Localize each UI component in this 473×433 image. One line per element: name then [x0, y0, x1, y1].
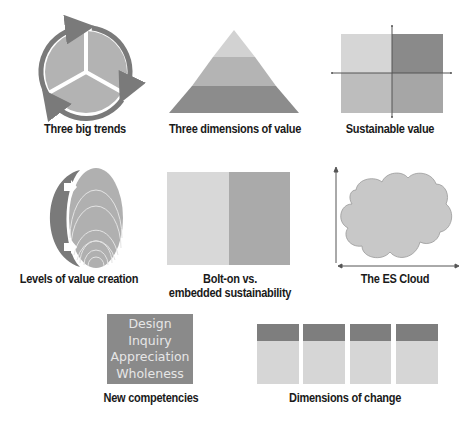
- change-column-4: [396, 324, 438, 384]
- bolt-on-panel: [167, 172, 229, 265]
- pyramid-icon: [155, 0, 325, 120]
- cloud-axes-icon: [320, 150, 473, 275]
- dimensions-of-change-diagram: Dimensions of change: [240, 300, 473, 433]
- es-cloud-diagram: The ES Cloud: [320, 150, 473, 300]
- column-body: [257, 341, 299, 384]
- column-body: [350, 341, 391, 384]
- change-column-3: [350, 324, 391, 384]
- trend-cycle-icon: [0, 0, 155, 130]
- competency-design: Design: [107, 316, 193, 333]
- bolt-on-vs-embedded-diagram: Bolt-on vs. embedded sustainability: [155, 150, 325, 305]
- three-big-trends-caption: Three big trends: [28, 122, 142, 136]
- column-header: [350, 324, 391, 341]
- column-body: [303, 341, 345, 384]
- three-dimensions-of-value-caption: Three dimensions of value: [165, 122, 306, 136]
- competency-inquiry: Inquiry: [107, 333, 193, 350]
- three-dimensions-of-value-diagram: Three dimensions of value: [155, 0, 325, 150]
- competencies-box: Design Inquiry Appreciation Wholeness: [107, 314, 193, 384]
- column-header: [257, 324, 299, 341]
- levels-of-value-creation-caption: Levels of value creation: [9, 272, 148, 286]
- change-column-1: [257, 324, 299, 384]
- es-cloud-caption: The ES Cloud: [338, 272, 452, 286]
- change-column-2: [303, 324, 345, 384]
- three-big-trends-diagram: Three big trends: [0, 0, 155, 150]
- caption-line-1: Bolt-on vs.: [164, 272, 296, 286]
- sustainable-value-caption: Sustainable value: [337, 122, 443, 136]
- caption-line-2: embedded sustainability: [164, 286, 296, 300]
- new-competencies-caption: New competencies: [97, 391, 204, 405]
- competency-appreciation: Appreciation: [107, 349, 193, 366]
- quadrant-grid-icon: [320, 0, 473, 120]
- competency-wholeness: Wholeness: [107, 366, 193, 383]
- column-header: [396, 324, 438, 341]
- bolt-on-vs-embedded-caption: Bolt-on vs. embedded sustainability: [164, 272, 296, 300]
- column-header: [303, 324, 345, 341]
- column-body: [396, 341, 438, 384]
- embedded-panel: [229, 172, 290, 265]
- new-competencies-diagram: Design Inquiry Appreciation Wholeness Ne…: [90, 300, 240, 433]
- nested-levels-icon: [0, 150, 160, 275]
- levels-of-value-creation-diagram: Levels of value creation: [0, 150, 160, 300]
- sustainable-value-diagram: Sustainable value: [320, 0, 473, 150]
- dimensions-of-change-caption: Dimensions of change: [288, 391, 402, 405]
